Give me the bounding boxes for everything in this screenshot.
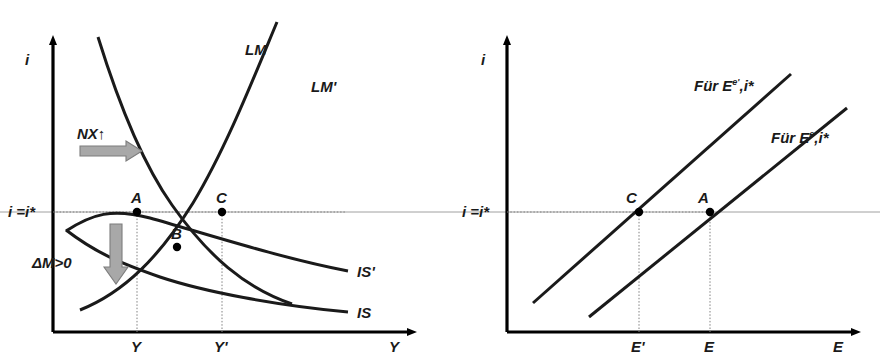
left-level-label: i =i* (8, 203, 36, 220)
left-point-A-marker (133, 208, 141, 216)
diagram-svg: i Y i =i* Y Y' IS IS' LM LM' A (0, 0, 880, 359)
annotation-NX-label: NX↑ (77, 125, 105, 142)
curve-IS-prime (66, 213, 348, 271)
right-y-axis-label: i (481, 51, 486, 68)
left-x-tick-Y: Y (131, 338, 143, 355)
left-x-axis-label: Y (389, 338, 401, 355)
fuer-Ee-prime-prefix: Für E (694, 77, 733, 94)
left-panel: i Y i =i* Y Y' IS IS' LM LM' A (8, 22, 408, 355)
left-point-A-label: A (130, 189, 142, 206)
right-x-axis-label: E (833, 338, 844, 355)
left-point-C-marker (218, 208, 226, 216)
right-level-label: i =i* (462, 203, 490, 220)
left-point-C-label: C (216, 189, 228, 206)
fuer-Ee-prime-suffix: ,i* (739, 77, 755, 94)
line-fuer-Ee-prime-label: Für Ee',i* (694, 77, 755, 94)
right-point-A-marker (706, 208, 714, 216)
fuer-Ee-prefix: Für E (771, 129, 810, 146)
nx-right-arrow-icon (80, 141, 142, 161)
curve-IS-label: IS (357, 304, 371, 321)
right-x-tick-Eprime: E' (631, 338, 645, 355)
line-fuer-Ee-prime (533, 74, 791, 303)
curve-IS-prime-label: IS' (357, 263, 375, 280)
curve-LM-prime-label: LM' (311, 78, 337, 95)
right-point-C-label: C (626, 189, 638, 206)
figure-container: i Y i =i* Y Y' IS IS' LM LM' A (0, 0, 880, 359)
right-x-tick-E: E (704, 338, 715, 355)
delta-m-down-arrow-icon (104, 224, 128, 284)
annotation-deltaM-label: ΔM>0 (31, 254, 72, 271)
right-point-A-label: A (697, 189, 709, 206)
left-point-B-marker (173, 243, 181, 251)
fuer-Ee-suffix: ,i* (813, 129, 829, 146)
left-y-axis-label: i (25, 51, 30, 68)
right-panel: i E i =i* E' E Für Ee',i* Für Ee,i* C A (462, 44, 852, 355)
left-x-tick-Yprime: Y' (214, 338, 228, 355)
line-fuer-Ee-label: Für Ee,i* (771, 129, 830, 146)
right-point-C-marker (635, 208, 643, 216)
left-point-B-label: B (171, 225, 182, 242)
